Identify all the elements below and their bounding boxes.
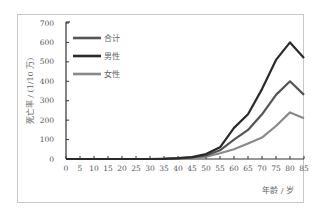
x-tick-label: 25 xyxy=(131,164,141,173)
x-tick-label: 80 xyxy=(285,164,295,173)
axes: 0100200300400500600700051015202530354045… xyxy=(40,19,309,174)
series-lines xyxy=(66,42,304,159)
x-tick-label: 85 xyxy=(299,164,309,173)
x-tick-label: 10 xyxy=(89,164,99,173)
x-tick-label: 0 xyxy=(64,164,69,173)
line-chart: 0100200300400500600700051015202530354045… xyxy=(0,0,320,216)
legend-label: 男性 xyxy=(104,51,120,61)
x-axis-label: 年龄 / 岁 xyxy=(262,185,294,195)
x-tick-label: 55 xyxy=(215,164,225,173)
x-tick-label: 60 xyxy=(229,164,239,173)
x-tick-label: 15 xyxy=(103,164,113,173)
x-tick-label: 45 xyxy=(187,164,197,173)
x-tick-label: 50 xyxy=(201,164,211,173)
y-tick-label: 700 xyxy=(40,19,55,28)
y-tick-label: 400 xyxy=(40,77,55,86)
x-tick-label: 35 xyxy=(159,164,169,173)
x-tick-label: 5 xyxy=(78,164,83,173)
x-tick-label: 70 xyxy=(257,164,267,173)
legend-label: 女性 xyxy=(104,69,120,79)
y-tick-label: 200 xyxy=(40,116,55,125)
x-tick-label: 20 xyxy=(117,164,127,173)
x-tick-label: 75 xyxy=(271,164,281,173)
y-tick-label: 600 xyxy=(40,38,55,47)
y-axis-label: 死亡率 / (1/10 万) xyxy=(25,58,35,125)
series-line-2 xyxy=(66,112,304,159)
x-tick-label: 30 xyxy=(145,164,155,173)
y-tick-label: 500 xyxy=(40,57,55,66)
series-line-1 xyxy=(66,42,304,159)
x-tick-label: 65 xyxy=(243,164,253,173)
legend-label: 合计 xyxy=(104,33,120,43)
legend: 合计男性女性 xyxy=(73,33,120,79)
y-tick-label: 0 xyxy=(49,155,54,164)
series-line-0 xyxy=(66,81,304,159)
y-tick-label: 300 xyxy=(40,96,55,105)
y-tick-label: 100 xyxy=(40,135,55,144)
x-tick-label: 40 xyxy=(173,164,183,173)
